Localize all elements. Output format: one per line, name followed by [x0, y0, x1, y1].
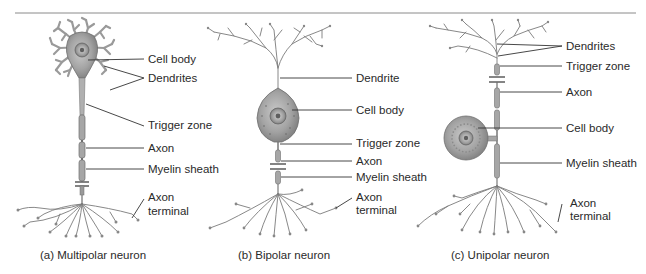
bipolar-axon-terminals	[210, 190, 336, 236]
unipolar-axon-break	[489, 77, 505, 82]
label-c-trigger-zone: Trigger zone	[566, 60, 630, 73]
label-a-cell-body: Cell body	[148, 53, 196, 66]
neuron-types-figure: Cell body Dendrites Trigger zone Axon My…	[0, 0, 646, 274]
unipolar-neuron	[417, 19, 562, 236]
caption-c: (c) Unipolar neuron	[451, 249, 549, 261]
label-c-axon: Axon	[566, 86, 592, 99]
caption-a: (a) Multipolar neuron	[40, 249, 146, 261]
label-b-axon-terminal-line2: terminal	[356, 204, 397, 217]
label-a-dendrites: Dendrites	[148, 72, 197, 85]
bipolar-axon-break	[270, 164, 286, 169]
unipolar-dendrite-tree	[430, 20, 548, 64]
label-c-axon-terminal-line1: Axon	[570, 197, 596, 210]
label-a-trigger-zone: Trigger zone	[148, 119, 212, 132]
bipolar-neuron	[207, 23, 352, 238]
multipolar-leader-lines	[86, 59, 144, 218]
multipolar-axon-break	[75, 182, 89, 186]
label-a-axon: Axon	[148, 142, 174, 155]
label-a-myelin-sheath: Myelin sheath	[148, 163, 219, 176]
label-c-myelin-sheath: Myelin sheath	[566, 157, 637, 170]
multipolar-neuron	[17, 18, 145, 238]
label-b-axon: Axon	[356, 155, 382, 168]
label-c-dendrites: Dendrites	[566, 40, 615, 53]
label-b-cell-body: Cell body	[356, 104, 404, 117]
label-c-cell-body: Cell body	[566, 122, 614, 135]
label-a-axon-terminal-line2: terminal	[148, 205, 189, 218]
label-b-axon-terminal-line1: Axon	[356, 191, 382, 204]
label-b-trigger-zone: Trigger zone	[356, 137, 420, 150]
multipolar-axon-terminals	[18, 204, 138, 236]
label-a-axon-terminal-line1: Axon	[148, 191, 174, 204]
caption-b: (b) Bipolar neuron	[238, 249, 330, 261]
bipolar-myelin	[276, 150, 281, 162]
unipolar-axon-terminals	[418, 186, 556, 234]
bipolar-dendrite-tree	[208, 24, 330, 95]
label-b-dendrite: Dendrite	[356, 72, 399, 85]
label-b-myelin-sheath: Myelin sheath	[356, 171, 427, 184]
multipolar-myelin	[79, 115, 85, 181]
label-c-axon-terminal-line2: terminal	[570, 210, 611, 223]
figure-canvas	[0, 0, 646, 274]
